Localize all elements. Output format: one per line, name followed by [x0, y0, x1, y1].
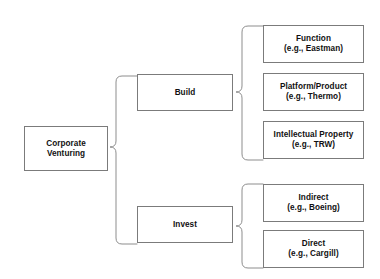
node-indirect[interactable]: Indirect (e.g., Boeing)	[263, 184, 364, 222]
node-label-line1: Function	[296, 34, 331, 44]
node-label-line1: Indirect	[299, 193, 329, 203]
node-intellectual-property[interactable]: Intellectual Property (e.g., TRW)	[263, 121, 364, 159]
node-label-line2: (e.g., Boeing)	[287, 203, 340, 213]
node-label-line1: Platform/Product	[280, 82, 347, 92]
node-label-line1: Corporate	[46, 139, 86, 149]
node-label-line2: (e.g., TRW)	[292, 140, 335, 150]
node-function[interactable]: Function (e.g., Eastman)	[263, 25, 364, 63]
corporate-venturing-diagram: Corporate Venturing Build Invest Functio…	[0, 0, 380, 279]
node-label-line1: Direct	[302, 239, 326, 249]
node-label-invest: Invest	[173, 220, 197, 230]
brace-root-to-branches	[108, 70, 140, 250]
node-corporate-venturing[interactable]: Corporate Venturing	[24, 126, 108, 171]
node-platform-product[interactable]: Platform/Product (e.g., Thermo)	[263, 73, 364, 111]
node-label-line2: Venturing	[47, 149, 85, 159]
node-direct[interactable]: Direct (e.g., Cargill)	[263, 230, 364, 268]
node-label-line2: (e.g., Eastman)	[284, 44, 343, 54]
node-label-line2: (e.g., Thermo)	[286, 92, 341, 102]
brace-invest-to-leaves	[234, 178, 266, 276]
node-label-line1: Intellectual Property	[274, 130, 354, 140]
node-invest[interactable]: Invest	[137, 206, 233, 243]
node-build[interactable]: Build	[137, 74, 233, 111]
brace-build-to-leaves	[234, 20, 266, 166]
node-label-line2: (e.g., Cargill)	[288, 249, 338, 259]
node-label-build: Build	[175, 88, 196, 98]
